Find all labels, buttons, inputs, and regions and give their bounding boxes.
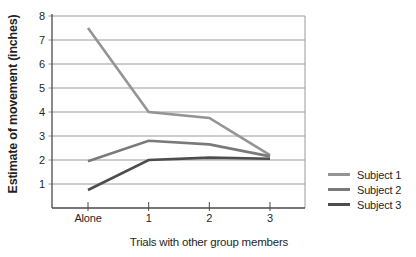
y-tick-label-8: 8 (39, 10, 45, 22)
subject-3-line-swatch (328, 203, 350, 206)
legend-label-subject-2: Subject 2 (357, 184, 401, 196)
series-line-subject-3 (88, 158, 270, 190)
legend-label-subject-3: Subject 3 (357, 199, 401, 211)
y-tick-label-4: 4 (39, 106, 45, 118)
social-influence-line-chart: 12345678Alone123 Estimate of movement (i… (0, 0, 416, 257)
y-axis-title: Estimate of movement (inches) (6, 4, 20, 204)
x-axis-title: Trials with other group members (89, 236, 329, 248)
legend-item-subject-1: Subject 1 (328, 169, 401, 180)
x-tick-label-3: 3 (267, 212, 273, 224)
y-tick-label-5: 5 (39, 82, 45, 94)
chart-canvas: 12345678Alone123 (0, 0, 416, 257)
y-tick-label-7: 7 (39, 34, 45, 46)
legend-item-subject-3: Subject 3 (328, 199, 401, 210)
x-tick-label-Alone: Alone (74, 212, 101, 224)
y-tick-label-6: 6 (39, 58, 45, 70)
legend: Subject 1 Subject 2 Subject 3 (328, 169, 401, 210)
y-tick-label-3: 3 (39, 130, 45, 142)
y-tick-label-2: 2 (39, 154, 45, 166)
legend-item-subject-2: Subject 2 (328, 184, 401, 195)
y-tick-label-1: 1 (39, 178, 45, 190)
x-tick-label-1: 1 (146, 212, 152, 224)
subject-2-line-swatch (328, 188, 350, 191)
x-tick-label-2: 2 (206, 212, 212, 224)
legend-label-subject-1: Subject 1 (357, 169, 401, 181)
subject-1-line-swatch (328, 173, 350, 176)
